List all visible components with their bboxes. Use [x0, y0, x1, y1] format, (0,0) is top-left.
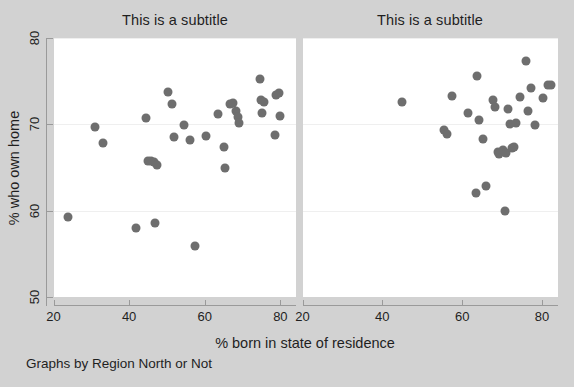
data-point — [275, 111, 284, 120]
data-point — [219, 142, 228, 151]
data-point — [186, 135, 195, 144]
data-point — [501, 206, 510, 215]
data-point — [397, 97, 406, 106]
data-point — [179, 121, 188, 130]
x-tick-label-60: 60 — [455, 309, 469, 324]
y-tick-80 — [46, 38, 53, 39]
data-point — [509, 142, 518, 151]
panel-1-subtitle: This is a subtitle — [55, 12, 295, 28]
data-point — [521, 57, 530, 66]
x-tick-label-60: 60 — [198, 309, 212, 324]
y-tick-70 — [46, 124, 53, 125]
data-point — [471, 189, 480, 198]
x-tick-label-20: 20 — [46, 309, 60, 324]
data-point — [63, 212, 72, 221]
gridline-y-80 — [54, 38, 296, 39]
panel-2-plot-area — [303, 38, 559, 297]
x-tick-80 — [542, 300, 543, 306]
panel-2-x-axis-line — [303, 305, 559, 306]
data-point — [234, 118, 243, 127]
data-point — [214, 109, 223, 118]
data-point — [527, 84, 536, 93]
data-point — [90, 122, 99, 131]
x-tick-20 — [54, 300, 55, 306]
panel-1-x-axis-line — [54, 305, 296, 306]
gridline-y-60 — [54, 211, 296, 212]
data-point — [524, 107, 533, 116]
data-point — [443, 129, 452, 138]
graphs-by-note: Graphs by Region North or Not — [26, 356, 212, 371]
data-point — [141, 114, 150, 123]
data-point — [151, 218, 160, 227]
x-tick-40 — [382, 300, 383, 306]
x-tick-40 — [129, 300, 130, 306]
data-point — [504, 104, 513, 113]
data-point — [170, 133, 179, 142]
x-tick-label-20: 20 — [295, 309, 309, 324]
x-tick-label-80: 80 — [273, 309, 287, 324]
data-point — [482, 182, 491, 191]
data-point — [547, 80, 556, 89]
data-point — [202, 132, 211, 141]
x-tick-80 — [280, 300, 281, 306]
x-tick-label-40: 40 — [375, 309, 389, 324]
data-point — [260, 97, 269, 106]
data-point — [516, 92, 525, 101]
y-tick-label-60: 60 — [26, 203, 41, 217]
panel-2-subtitle: This is a subtitle — [310, 12, 550, 28]
gridline-y-60 — [303, 211, 559, 212]
data-point — [164, 87, 173, 96]
x-tick-20 — [303, 300, 304, 306]
data-point — [463, 109, 472, 118]
data-point — [491, 103, 500, 112]
y-axis-label: % who own home — [6, 110, 22, 224]
data-point — [530, 121, 539, 130]
data-point — [479, 135, 488, 144]
x-tick-label-80: 80 — [535, 309, 549, 324]
data-point — [255, 74, 264, 83]
data-point — [190, 242, 199, 251]
x-tick-label-40: 40 — [122, 309, 136, 324]
data-point — [475, 116, 484, 125]
y-tick-label-50: 50 — [26, 290, 41, 304]
gridline-y-80 — [303, 38, 559, 39]
panel-1-plot-area — [54, 38, 296, 297]
y-axis-line — [46, 38, 47, 306]
y-tick-label-80: 80 — [26, 31, 41, 45]
stata-twoway-scatter-figure: This is a subtitle20406080This is a subt… — [0, 0, 574, 387]
x-tick-60 — [205, 300, 206, 306]
y-tick-50 — [46, 297, 53, 298]
data-point — [538, 94, 547, 103]
x-axis-label: % born in state of residence — [215, 335, 395, 351]
y-tick-60 — [46, 211, 53, 212]
data-point — [274, 89, 283, 98]
data-point — [221, 163, 230, 172]
data-point — [153, 160, 162, 169]
data-point — [447, 91, 456, 100]
data-point — [132, 223, 141, 232]
y-tick-label-70: 70 — [26, 117, 41, 131]
data-point — [473, 71, 482, 80]
data-point — [511, 118, 520, 127]
data-point — [99, 139, 108, 148]
x-tick-60 — [462, 300, 463, 306]
data-point — [168, 100, 177, 109]
data-point — [270, 130, 279, 139]
data-point — [258, 109, 267, 118]
